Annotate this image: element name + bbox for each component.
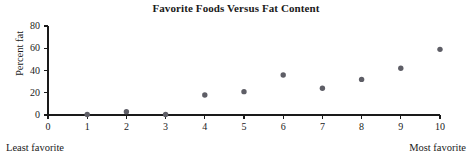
x-tick-label: 4 — [195, 122, 215, 132]
x-tick-label: 1 — [77, 122, 97, 132]
data-point — [437, 47, 442, 52]
y-tick-label: 20 — [18, 88, 40, 98]
x-tick-label: 2 — [116, 122, 136, 132]
x-tick-label: 10 — [430, 122, 450, 132]
x-tick-label: 5 — [234, 122, 254, 132]
data-point — [124, 109, 129, 114]
y-tick-label: 80 — [18, 21, 40, 31]
x-tick-label: 3 — [156, 122, 176, 132]
y-tick-label: 0 — [18, 110, 40, 120]
axis-lines — [48, 26, 440, 115]
x-tick-label: 7 — [312, 122, 332, 132]
data-point-series — [85, 47, 443, 117]
chart-figure: Favorite Foods Versus Fat Content Percen… — [0, 0, 472, 159]
data-point — [202, 92, 207, 97]
annotation-least-favorite: Least favorite — [6, 142, 64, 153]
data-point — [163, 112, 168, 117]
scatter-plot-canvas — [0, 0, 472, 159]
x-tick-label: 9 — [391, 122, 411, 132]
x-tick-label: 8 — [352, 122, 372, 132]
annotation-most-favorite: Most favorite — [409, 142, 466, 153]
y-tick-label: 60 — [18, 43, 40, 53]
data-point — [281, 72, 286, 77]
data-point — [241, 89, 246, 94]
x-tick-label: 6 — [273, 122, 293, 132]
x-tick-label: 0 — [38, 122, 58, 132]
data-point — [320, 86, 325, 91]
y-tick-label: 40 — [18, 66, 40, 76]
data-point — [85, 112, 90, 117]
data-point — [398, 66, 403, 71]
data-point — [359, 77, 364, 82]
